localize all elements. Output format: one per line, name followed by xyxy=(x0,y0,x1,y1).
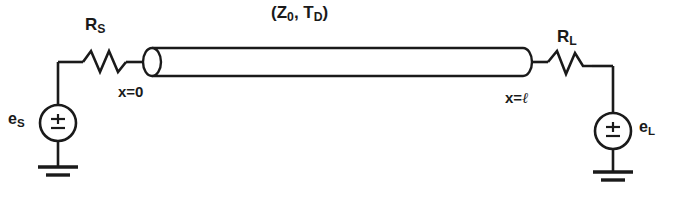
transmission-line xyxy=(143,48,532,76)
rl-subscript: L xyxy=(569,34,576,48)
length-symbol: ℓ xyxy=(522,90,528,106)
source-ground xyxy=(38,167,78,175)
source-resistor-label: RS xyxy=(85,16,105,36)
rs-subscript: S xyxy=(97,22,105,36)
el-symbol: e xyxy=(639,118,648,135)
x-end-prefix: x= xyxy=(505,89,522,106)
el-subscript: L xyxy=(648,125,655,137)
load-ground xyxy=(593,172,633,180)
source-resistor xyxy=(83,51,152,72)
es-subscript: S xyxy=(17,117,25,129)
impedance-subscript: 0 xyxy=(287,10,294,24)
source-voltage-source xyxy=(40,105,76,167)
source-branch-wire xyxy=(58,62,83,105)
delay-subscript: D xyxy=(314,10,323,24)
paren-close: ) xyxy=(323,3,329,22)
line-output-position-label: x=ℓ xyxy=(505,90,528,106)
rl-symbol: R xyxy=(557,27,569,46)
source-voltage-label: eS xyxy=(8,111,25,130)
load-voltage-label: eL xyxy=(639,119,655,138)
impedance-symbol: Z xyxy=(277,3,287,22)
load-voltage-source xyxy=(595,113,631,172)
delay-symbol: T xyxy=(303,3,313,22)
transmission-line-circuit-diagram: (Z0, TD) RS RL x=0 x=ℓ eS eL xyxy=(0,0,674,197)
rs-symbol: R xyxy=(85,15,97,34)
transmission-line-parameters-label: (Z0, TD) xyxy=(271,4,328,24)
line-input-position-label: x=0 xyxy=(118,84,143,99)
load-resistor-label: RL xyxy=(557,28,577,48)
load-resistor xyxy=(548,51,613,113)
params-separator: , xyxy=(294,3,303,22)
es-symbol: e xyxy=(8,110,17,127)
